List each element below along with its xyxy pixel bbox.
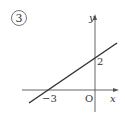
y-axis-label: y (88, 12, 95, 23)
origin-label: O (85, 93, 93, 104)
graph-figure: 3 y x O −3 2 (0, 0, 125, 114)
x-intercept-label: −3 (42, 93, 57, 104)
x-axis-label: x (110, 93, 116, 104)
problem-number: 3 (16, 12, 23, 25)
x-axis-arrow-icon (113, 88, 119, 92)
y-intercept-label: 2 (97, 56, 103, 67)
